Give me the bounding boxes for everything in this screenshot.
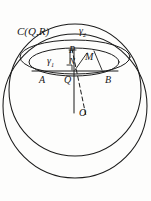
label-point-o: O: [79, 108, 86, 118]
label-gamma-2: γ2: [79, 26, 86, 38]
label-point-n: N: [69, 57, 75, 66]
label-point-p: P: [69, 45, 75, 55]
secondary-sphere-circle: [9, 24, 141, 156]
label-gamma-1: γ1: [47, 56, 54, 68]
geometry-figure: C(Q,R) γ2 γ1 P N M A Q B O: [0, 0, 151, 201]
label-sphere-c-q-r: C(Q,R): [17, 26, 49, 37]
label-point-b: B: [105, 75, 111, 85]
segment-m-right-line: [94, 51, 102, 70]
label-point-a: A: [39, 75, 45, 85]
gamma1-subscript: 1: [51, 61, 54, 68]
label-point-q: Q: [64, 75, 71, 85]
gamma2-subscript: 2: [83, 31, 86, 38]
label-point-m: M: [85, 52, 93, 62]
